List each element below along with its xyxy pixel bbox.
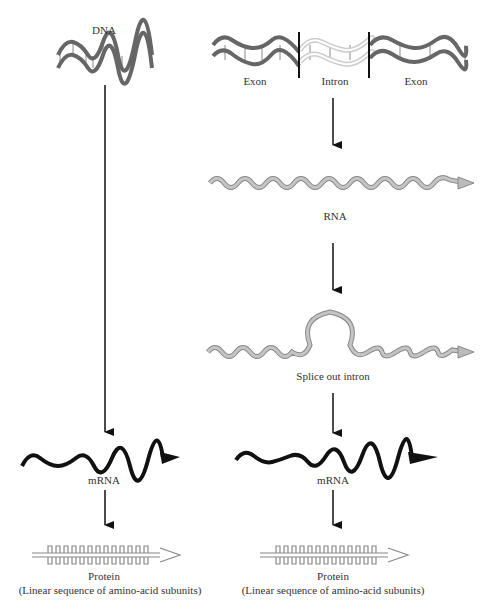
exon-label-1: Exon — [243, 75, 266, 87]
protein-sublabel-left: (Linear sequence of amino-acid subunits) — [19, 584, 202, 596]
mrna-label-right: mRNA — [317, 474, 349, 486]
splice-label: Splice out intron — [296, 370, 369, 382]
protein-label-right: Protein — [317, 570, 349, 582]
protein-chain-icon — [32, 546, 180, 564]
protein-chain-icon-right — [260, 546, 408, 564]
intron-label: Intron — [322, 75, 349, 87]
protein-label-left: Protein — [88, 570, 120, 582]
mrna-strand-icon-right — [236, 439, 438, 478]
diagram-canvas: DNA Exon Intron Exon RNA Splice out intr… — [0, 0, 500, 616]
splice-loop-icon — [208, 312, 474, 358]
rna-label: RNA — [323, 210, 346, 222]
protein-sublabel-right: (Linear sequence of amino-acid subunits) — [242, 584, 425, 596]
exon-label-2: Exon — [404, 75, 427, 87]
mrna-label-left: mRNA — [88, 474, 120, 486]
rna-strand-icon — [210, 177, 474, 189]
dna-label: DNA — [92, 24, 116, 36]
gene-exon-intron-icon — [213, 32, 466, 78]
